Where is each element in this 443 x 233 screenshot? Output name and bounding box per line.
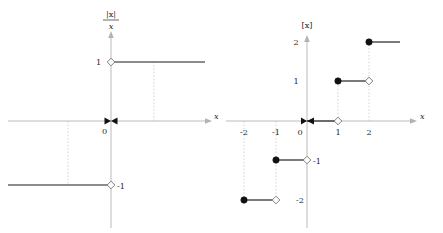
endpoint-closed-circle-neg2 (241, 197, 247, 203)
sign-function-canvas: 1 -1 0 x |x| x (0, 0, 222, 233)
plot-sign-function: 1 -1 0 x |x| x (0, 0, 222, 233)
x-tick-label-neg2: -2 (240, 127, 248, 137)
x-axis-label: x (214, 111, 219, 121)
endpoint-open-diamond-pos1 (365, 77, 373, 85)
y-tick-label-neg2: -2 (296, 195, 304, 205)
x-axis-arrowhead (205, 118, 212, 124)
endpoint-closed-circle-pos1 (335, 78, 341, 84)
plot-greatest-integer-function: -2 -1 0 1 2 2 1 -1 -2 [x] x (222, 0, 443, 233)
endpoint-open-diamond-at-1 (107, 58, 115, 66)
y-axis-arrowhead (108, 31, 114, 38)
y-axis-label-denominator: x (109, 21, 114, 31)
origin-arrowhead-right (111, 118, 118, 125)
x-axis-label: x (420, 111, 425, 121)
step-function-figure: 1 -1 0 x |x| x (0, 0, 443, 233)
endpoint-open-diamond-neg2 (272, 196, 280, 204)
endpoint-closed-circle-pos2 (366, 39, 372, 45)
y-axis-label-numerator: |x| (106, 9, 116, 19)
greatest-integer-canvas: -2 -1 0 1 2 2 1 -1 -2 [x] x (222, 0, 443, 233)
origin-arrowhead-left (105, 118, 112, 125)
origin-tick-label: 0 (102, 126, 107, 136)
y-axis-label: [x] (301, 20, 312, 30)
origin-arrowhead-right (307, 118, 314, 125)
y-tick-label-1: 1 (96, 57, 101, 67)
x-tick-label-zero: 0 (297, 127, 302, 137)
endpoint-open-diamond-at-neg1 (107, 181, 115, 189)
origin-arrowhead-left (301, 118, 307, 125)
x-tick-label-neg1: -1 (272, 127, 280, 137)
endpoint-open-diamond-zero (334, 117, 342, 125)
y-tick-label-2: 2 (293, 37, 298, 47)
x-tick-label-pos1: 1 (335, 127, 340, 137)
y-tick-label-1: 1 (293, 76, 298, 86)
x-tick-label-pos2: 2 (366, 127, 371, 137)
y-axis-arrowhead (304, 35, 310, 42)
endpoint-closed-circle-neg1 (273, 157, 279, 163)
y-tick-label-neg-1: -1 (117, 181, 125, 191)
x-axis-arrowhead (410, 118, 417, 124)
endpoint-open-diamond-neg1 (303, 156, 311, 164)
y-tick-label-neg1: -1 (313, 156, 321, 166)
